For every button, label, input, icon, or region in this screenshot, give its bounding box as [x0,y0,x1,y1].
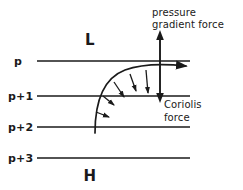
isobar-label-p-plus-2: p+2 [8,121,33,134]
diagram-canvas: p p+1 p+2 p+3 L H [0,0,243,190]
isobar-p-plus-2: p+2 [8,121,190,134]
isobar-p-plus-3: p+3 [8,152,190,165]
pressure-gradient-force-arrowhead [156,30,164,40]
pressure-gradient-force-label-line-1: pressure [152,7,196,18]
coriolis-tick-arrow-5 [146,70,148,93]
isobar-label-p-plus-1: p+1 [8,90,33,103]
coriolis-tick-arrow-1 [96,112,109,117]
coriolis-tick-arrow-4 [130,74,136,91]
pressure-gradient-force-label-line-2: gradient force [152,19,224,30]
gradient-wind-balance-diagram: p p+1 p+2 p+3 L H [0,0,243,190]
high-pressure-label: H [83,167,96,185]
force-balance-axis [156,30,164,103]
pressure-gradient-force-label: pressure gradient force [152,7,224,30]
coriolis-force-label-line-2: force [164,112,190,123]
coriolis-force-arrowhead [156,93,164,103]
isobar-label-p: p [14,55,22,68]
coriolis-force-label-line-1: Coriolis [164,99,202,110]
low-pressure-label: L [85,31,95,49]
coriolis-tick-arrow-3 [114,82,124,97]
coriolis-tick-group [96,70,148,117]
isobar-label-p-plus-3: p+3 [8,152,33,165]
coriolis-tick-arrow-2 [103,96,114,105]
isobar-p: p [14,55,190,68]
isobar-group: p p+1 p+2 p+3 [8,55,190,165]
coriolis-force-label: Coriolis force [164,99,202,123]
